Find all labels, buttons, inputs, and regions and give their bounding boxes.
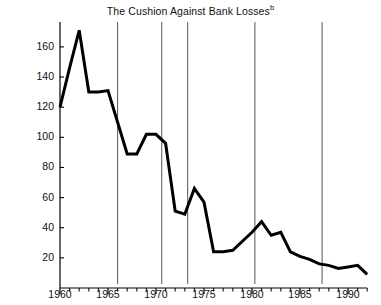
x-axis-tick-label: 1960 <box>40 288 80 300</box>
y-axis-tick-label: 140 <box>24 70 54 82</box>
recession-marker-group <box>118 22 322 284</box>
y-axis-tick-label: 100 <box>24 130 54 142</box>
x-axis-tick-label: 1975 <box>184 288 224 300</box>
y-axis-tick-label: 160 <box>24 40 54 52</box>
chart-figure: The Cushion Against Bank Lossesb 2040608… <box>0 0 381 305</box>
x-axis-tick-label: 1980 <box>232 288 272 300</box>
x-axis-tick-label: 1985 <box>280 288 320 300</box>
y-axis-tick-label: 80 <box>24 160 54 172</box>
data-series-line <box>60 30 367 274</box>
x-axis-tick-label: 1970 <box>136 288 176 300</box>
plot-area <box>0 0 381 305</box>
y-axis-tick-label: 40 <box>24 221 54 233</box>
y-axis-tick-label: 60 <box>24 191 54 203</box>
x-axis-tick-label: 1965 <box>88 288 128 300</box>
y-axis-tick-label: 20 <box>24 251 54 263</box>
x-axis-tick-label: 1990 <box>328 288 368 300</box>
y-axis-tick-label: 120 <box>24 100 54 112</box>
